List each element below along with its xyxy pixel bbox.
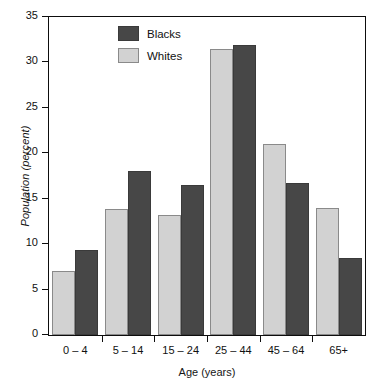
- bar-whites[interactable]: [263, 144, 286, 335]
- y-axis-tick-label: 10: [26, 236, 38, 248]
- y-axis-tick: 35: [42, 16, 49, 17]
- x-axis-category-label: 45 – 64: [268, 344, 305, 356]
- bar-blacks[interactable]: [233, 45, 256, 335]
- chart-legend: Blacks Whites: [118, 26, 182, 63]
- legend-swatch-blacks-icon: [118, 26, 139, 41]
- bar-group: 25 – 44: [207, 17, 260, 335]
- y-axis-tick: 15: [42, 198, 49, 199]
- bar-blacks[interactable]: [181, 185, 204, 335]
- bar-blacks[interactable]: [128, 171, 151, 335]
- x-axis-category-label: 25 – 44: [215, 344, 252, 356]
- x-axis-tick: [260, 335, 261, 342]
- legend-item-blacks: Blacks: [118, 26, 182, 41]
- bar-group: 5 – 14: [102, 17, 155, 335]
- x-axis-category-label: 15 – 24: [162, 344, 199, 356]
- bar-blacks[interactable]: [286, 183, 309, 335]
- y-axis-tick: 25: [42, 107, 49, 108]
- y-axis-tick-label: 30: [26, 54, 38, 66]
- legend-label-blacks: Blacks: [147, 28, 181, 40]
- y-axis-tick: 20: [42, 152, 49, 153]
- y-axis-tick: 30: [42, 61, 49, 62]
- y-axis-tick-label: 20: [26, 145, 38, 157]
- y-axis-tick: 0: [42, 334, 49, 335]
- legend-label-whites: Whites: [147, 50, 182, 62]
- plot-area: 051015202530350 – 45 – 1415 – 2425 – 444…: [48, 16, 366, 336]
- x-axis-tick: [102, 335, 103, 342]
- bar-whites[interactable]: [316, 208, 339, 335]
- x-axis-tick: [207, 335, 208, 342]
- bar-group: 0 – 4: [49, 17, 102, 335]
- x-axis-category-label: 65+: [329, 344, 348, 356]
- x-axis-title: Age (years): [48, 366, 366, 378]
- legend-item-whites: Whites: [118, 48, 182, 63]
- bar-whites[interactable]: [52, 271, 75, 335]
- bar-group: 65+: [312, 17, 365, 335]
- y-axis-tick-label: 0: [32, 327, 38, 339]
- legend-swatch-whites-icon: [118, 48, 139, 63]
- x-axis-tick: [312, 335, 313, 342]
- x-axis-category-label: 5 – 14: [113, 344, 144, 356]
- y-axis-tick-label: 5: [32, 282, 38, 294]
- y-axis-tick-label: 15: [26, 191, 38, 203]
- bar-whites[interactable]: [158, 215, 181, 335]
- bar-whites[interactable]: [105, 209, 128, 335]
- x-axis-category-label: 0 – 4: [63, 344, 87, 356]
- y-axis-tick: 10: [42, 243, 49, 244]
- bar-chart-figure: Population (percent) 051015202530350 – 4…: [0, 0, 380, 387]
- y-axis-tick-label: 25: [26, 100, 38, 112]
- bar-blacks[interactable]: [75, 250, 98, 335]
- bar-group: 45 – 64: [260, 17, 313, 335]
- y-axis-tick: 5: [42, 289, 49, 290]
- bar-blacks[interactable]: [339, 258, 362, 335]
- bar-whites[interactable]: [210, 49, 233, 335]
- y-axis-tick-label: 35: [26, 9, 38, 21]
- bar-group: 15 – 24: [154, 17, 207, 335]
- x-axis-tick: [154, 335, 155, 342]
